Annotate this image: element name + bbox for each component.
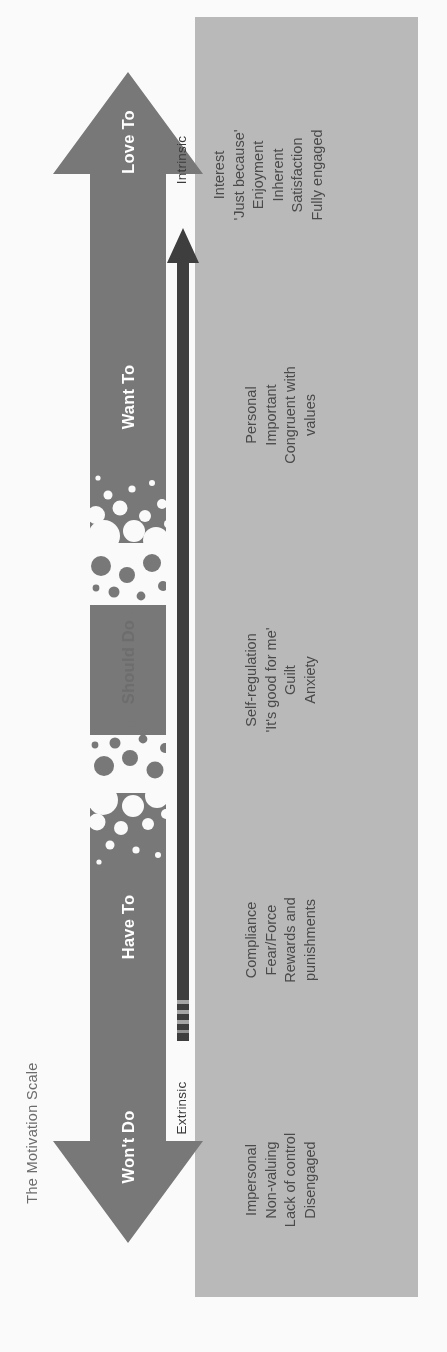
- descriptor-item: Important: [262, 320, 282, 510]
- motivation-scale-diagram: The Motivation Scale: [0, 0, 447, 1352]
- descriptor-item: Impersonal: [242, 1085, 262, 1275]
- axis-label-intrinsic: Intrinsic: [172, 110, 192, 210]
- descriptors-have-to: Compliance Fear/Force Rewards and punish…: [242, 845, 332, 1035]
- descriptor-item: 'Just because': [230, 80, 250, 270]
- band-label-have-to: Have To: [116, 866, 140, 988]
- band-label-should-do: Should Do: [116, 596, 140, 728]
- descriptor-item: Congruent with: [281, 320, 301, 510]
- descriptor-item: Anxiety: [301, 585, 321, 775]
- descriptor-item: punishments: [301, 845, 321, 1035]
- descriptors-want-to: Personal Important Congruent with values: [242, 320, 332, 510]
- descriptors-wont-do: Impersonal Non-valuing Lack of control D…: [242, 1085, 332, 1275]
- descriptor-item: 'It's good for me': [262, 585, 282, 775]
- descriptor-item: values: [301, 320, 321, 510]
- descriptors-love-to: Interest 'Just because' Enjoyment Inhere…: [210, 80, 340, 270]
- descriptor-item: Satisfaction: [288, 80, 308, 270]
- descriptor-item: Non-valuing: [262, 1085, 282, 1275]
- band-label-wont-do: Won't Do: [116, 1084, 140, 1210]
- descriptor-item: Personal: [242, 320, 262, 510]
- axis-label-extrinsic: Extrinsic: [172, 1056, 192, 1160]
- band-label-want-to: Want To: [116, 336, 140, 458]
- descriptor-item: Disengaged: [301, 1085, 321, 1275]
- descriptor-item: Lack of control: [281, 1085, 301, 1275]
- descriptor-item: Enjoyment: [249, 80, 269, 270]
- descriptor-item: Fully engaged: [308, 80, 328, 270]
- descriptor-item: Inherent: [269, 80, 289, 270]
- descriptor-item: Guilt: [281, 585, 301, 775]
- band-label-love-to: Love To: [116, 81, 140, 203]
- descriptor-item: Interest: [210, 80, 230, 270]
- descriptor-item: Self-regulation: [242, 585, 262, 775]
- descriptors-should-do: Self-regulation 'It's good for me' Guilt…: [242, 585, 332, 775]
- descriptor-item: Compliance: [242, 845, 262, 1035]
- descriptor-item: Fear/Force: [262, 845, 282, 1035]
- descriptor-item: Rewards and: [281, 845, 301, 1035]
